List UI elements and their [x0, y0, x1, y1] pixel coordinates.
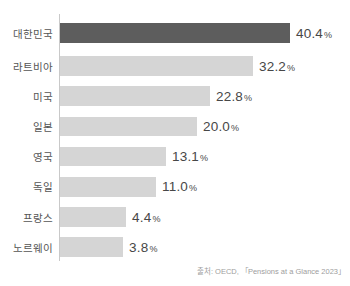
- value-label: 32.2%: [259, 59, 295, 74]
- percent-sign: %: [152, 214, 160, 224]
- bar: [60, 117, 197, 137]
- value-label: 20.0%: [203, 119, 239, 134]
- bar-row: 대한민국 40.4%: [0, 23, 350, 43]
- value-number: 22.8: [216, 89, 243, 104]
- bar-row: 독일 11.0%: [0, 177, 350, 197]
- value-label: 4.4%: [132, 210, 161, 225]
- value-label: 13.1%: [172, 149, 208, 164]
- bar: [60, 177, 156, 197]
- percent-sign: %: [189, 183, 197, 193]
- source-citation: 출처: OECD, 「Pensions at a Glance 2023」: [197, 265, 345, 276]
- bar-row: 프랑스 4.4%: [0, 207, 350, 227]
- value-label: 40.4%: [296, 26, 332, 41]
- bar: [60, 86, 210, 106]
- percent-sign: %: [324, 30, 332, 40]
- percent-sign: %: [200, 153, 208, 163]
- country-label: 라트비아: [0, 59, 53, 74]
- bar: [60, 147, 166, 167]
- percent-sign: %: [231, 123, 239, 133]
- bar: [60, 23, 290, 43]
- value-label: 3.8%: [129, 240, 158, 255]
- value-label: 22.8%: [216, 89, 252, 104]
- value-number: 20.0: [203, 119, 230, 134]
- value-number: 11.0: [162, 179, 188, 194]
- percent-sign: %: [244, 93, 252, 103]
- bar-row: 노르웨이 3.8%: [0, 237, 350, 257]
- bar: [60, 237, 123, 257]
- bar-chart: 대한민국 40.4% 라트비아 32.2% 미국 22.8% 일본 20.0% …: [0, 0, 350, 286]
- country-label: 영국: [0, 149, 53, 164]
- country-label: 노르웨이: [0, 240, 53, 255]
- value-number: 4.4: [132, 210, 151, 225]
- country-label: 프랑스: [0, 210, 53, 225]
- value-label: 11.0%: [162, 179, 197, 194]
- percent-sign: %: [149, 244, 157, 254]
- percent-sign: %: [287, 63, 295, 73]
- country-label: 미국: [0, 89, 53, 104]
- value-number: 13.1: [172, 149, 199, 164]
- country-label: 독일: [0, 179, 53, 194]
- bar-row: 미국 22.8%: [0, 86, 350, 106]
- value-number: 3.8: [129, 240, 148, 255]
- bar: [60, 207, 126, 227]
- country-label: 대한민국: [0, 26, 53, 41]
- bar-row: 영국 13.1%: [0, 147, 350, 167]
- bar-row: 일본 20.0%: [0, 116, 350, 136]
- bar: [60, 56, 253, 76]
- country-label: 일본: [0, 119, 53, 134]
- bar-row: 라트비아 32.2%: [0, 56, 350, 76]
- value-number: 40.4: [296, 26, 323, 41]
- value-number: 32.2: [259, 59, 286, 74]
